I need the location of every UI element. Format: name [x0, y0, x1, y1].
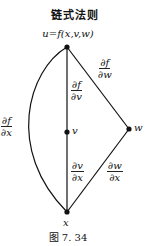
- node-x-label: x: [63, 217, 69, 228]
- denominator: ∂w: [98, 69, 112, 80]
- node-u: [64, 44, 69, 49]
- edge-label-dv-dx: ∂v ∂x: [71, 160, 84, 183]
- numerator: ∂f: [1, 115, 12, 127]
- denominator: ∂x: [1, 127, 12, 138]
- node-w: [126, 126, 131, 131]
- edge-u-x-curve: [29, 47, 67, 212]
- denominator: ∂x: [109, 172, 120, 183]
- edge-label-dw-dx: ∂w ∂x: [107, 160, 123, 183]
- edge-label-df-dx: ∂f ∂x: [1, 115, 12, 138]
- node-w-label: w: [134, 122, 143, 133]
- figure-caption: 图 7. 34: [0, 229, 136, 244]
- numerator: ∂f: [71, 79, 82, 91]
- numerator: ∂v: [71, 160, 84, 172]
- edge-label-df-dv: ∂f ∂v: [71, 79, 82, 102]
- denominator: ∂v: [71, 91, 82, 102]
- numerator: ∂w: [107, 160, 123, 172]
- numerator: ∂f: [99, 57, 110, 69]
- denominator: ∂x: [72, 172, 83, 183]
- node-v-label: v: [72, 125, 78, 136]
- node-x: [64, 209, 69, 214]
- edge-label-df-dw: ∂f ∂w: [98, 57, 112, 80]
- chain-rule-graph: [0, 0, 149, 246]
- node-v: [64, 129, 69, 134]
